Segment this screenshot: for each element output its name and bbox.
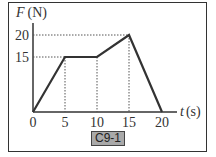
- x-tick-5: 5: [62, 115, 69, 130]
- guide-lines: [33, 35, 129, 112]
- figure-caption: C9-1: [91, 131, 125, 146]
- y-axis-label: F(N): [15, 5, 47, 21]
- y-tick-20: 20: [15, 28, 29, 43]
- x-tick-15: 15: [122, 115, 136, 130]
- x-tick-10: 10: [90, 115, 104, 130]
- x-axis-label: t(s): [180, 104, 201, 120]
- x-tick-0: 0: [30, 115, 37, 130]
- y-tick-15: 15: [15, 50, 29, 65]
- x-tick-20: 20: [155, 115, 169, 130]
